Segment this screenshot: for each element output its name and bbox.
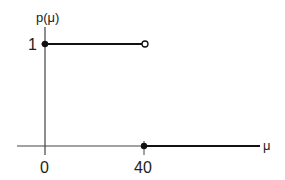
step-function-chart: p(μ) 1 0 40 μ: [0, 0, 285, 180]
x-tick-label-0: 0: [40, 159, 49, 176]
closed-dot-40: [141, 143, 147, 149]
y-tick-label-1: 1: [28, 36, 37, 53]
closed-dot-start: [42, 41, 48, 47]
x-axis-label: μ: [263, 138, 271, 153]
open-dot-end: [142, 41, 148, 47]
y-axis-label: p(μ): [36, 10, 59, 25]
x-tick-label-40: 40: [134, 159, 152, 176]
